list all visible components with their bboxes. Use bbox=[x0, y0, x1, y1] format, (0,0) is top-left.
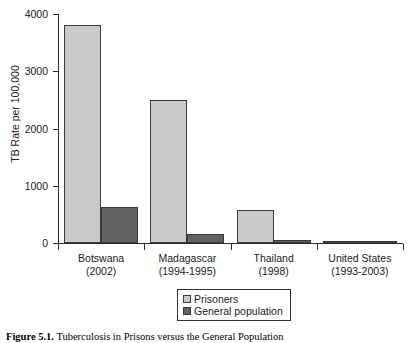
bar-prisoners bbox=[150, 100, 187, 243]
category-period: (1993-2003) bbox=[317, 265, 403, 278]
x-axis-category-labels: Botswana(2002)Madagascar(1994-1995)Thail… bbox=[58, 252, 403, 286]
category-name: Madagascar bbox=[144, 252, 230, 265]
x-axis-category-label: United States(1993-2003) bbox=[317, 252, 403, 278]
x-axis-tick bbox=[317, 244, 318, 250]
legend-swatch-prisoners-icon bbox=[183, 295, 191, 303]
chart-legend: Prisoners General population bbox=[177, 289, 291, 321]
figure-caption-text: Tuberculosis in Prisons versus the Gener… bbox=[56, 331, 283, 342]
figure-caption: Figure 5.1. Tuberculosis in Prisons vers… bbox=[6, 330, 414, 343]
legend-item-general-population: General population bbox=[183, 305, 283, 317]
bar-general-population bbox=[101, 207, 138, 243]
bar-general-population bbox=[360, 241, 397, 243]
x-axis-category-label: Thailand(1998) bbox=[231, 252, 317, 278]
bar-prisoners bbox=[323, 241, 360, 243]
bar-general-population bbox=[274, 240, 311, 243]
figure-caption-label: Figure 5.1. bbox=[6, 331, 54, 342]
y-axis-tick-label: 0 bbox=[42, 238, 48, 248]
figure-container: TB Rate per 100,000 01000200030004000 Bo… bbox=[0, 0, 420, 343]
bar-prisoners bbox=[64, 25, 101, 243]
y-axis-tick-label: 2000 bbox=[25, 124, 48, 134]
legend-label-general-population: General population bbox=[194, 305, 283, 317]
y-axis-tick-label: 4000 bbox=[25, 9, 48, 19]
category-name: Botswana bbox=[58, 252, 144, 265]
y-axis-tick-label: 3000 bbox=[25, 66, 48, 76]
category-period: (1998) bbox=[231, 265, 317, 278]
bar-prisoners bbox=[237, 210, 274, 243]
bars-layer bbox=[58, 14, 403, 243]
category-period: (1994-1995) bbox=[144, 265, 230, 278]
legend-swatch-general-population-icon bbox=[183, 307, 191, 315]
legend-label-prisoners: Prisoners bbox=[194, 293, 238, 305]
category-period: (2002) bbox=[58, 265, 144, 278]
category-name: Thailand bbox=[231, 252, 317, 265]
y-axis-tick-label: 1000 bbox=[25, 181, 48, 191]
x-axis-category-label: Botswana(2002) bbox=[58, 252, 144, 278]
x-axis-tick bbox=[231, 244, 232, 250]
legend-item-prisoners: Prisoners bbox=[183, 293, 283, 305]
x-axis-tick bbox=[58, 244, 59, 250]
x-axis-tick bbox=[144, 244, 145, 250]
x-axis-category-label: Madagascar(1994-1995) bbox=[144, 252, 230, 278]
category-name: United States bbox=[317, 252, 403, 265]
y-axis-title: TB Rate per 100,000 bbox=[9, 54, 21, 174]
x-axis-tick bbox=[403, 244, 404, 250]
bar-general-population bbox=[187, 234, 224, 243]
